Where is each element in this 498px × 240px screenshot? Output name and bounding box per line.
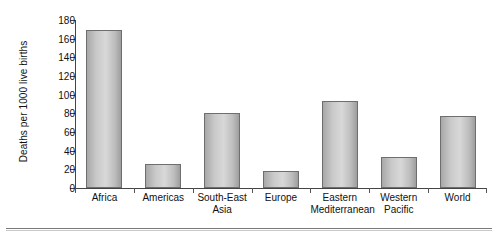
x-axis-label-europe: Europe: [252, 192, 311, 204]
x-axis-label-line: Eastern: [310, 192, 369, 204]
bar-world: [440, 116, 476, 188]
y-tick-label: 180: [58, 15, 75, 26]
x-axis-label-line: Asia: [193, 204, 252, 216]
x-axis-line: [75, 188, 487, 189]
bar-western-pacific: [381, 157, 417, 188]
y-axis-title: Deaths per 1000 live births: [18, 17, 29, 187]
y-axis-line: [75, 20, 76, 189]
bar-europe: [263, 171, 299, 188]
x-axis-label-line: Americas: [134, 192, 193, 204]
x-axis-label-eastern-mediterranean: EasternMediterranean: [310, 192, 369, 216]
bar-eastern-mediterranean: [322, 101, 358, 188]
bar-south-east-asia: [204, 113, 240, 188]
y-tick-label: 40: [64, 145, 75, 156]
x-axis-label-south-east-asia: South-EastAsia: [193, 192, 252, 216]
x-axis-label-americas: Americas: [134, 192, 193, 204]
bar-chart-figure: Deaths per 1000 live births 020406080100…: [0, 0, 498, 240]
bar-americas: [145, 164, 181, 188]
x-axis-label-line: South-East: [193, 192, 252, 204]
plot-area: 020406080100120140160180: [75, 20, 487, 188]
x-axis-label-western-pacific: WesternPacific: [369, 192, 428, 216]
x-axis-label-world: World: [428, 192, 487, 204]
x-axis-label-line: Pacific: [369, 204, 428, 216]
y-tick-label: 140: [58, 52, 75, 63]
x-axis-label-line: Europe: [252, 192, 311, 204]
x-axis-label-line: World: [428, 192, 487, 204]
y-tick-label: 80: [64, 108, 75, 119]
x-axis-label-africa: Africa: [75, 192, 134, 204]
y-tick-label: 60: [64, 127, 75, 138]
footer-divider: [6, 228, 492, 229]
bar-africa: [86, 30, 122, 188]
y-tick-label: 100: [58, 89, 75, 100]
x-axis-label-line: Mediterranean: [310, 204, 369, 216]
x-axis-label-line: Western: [369, 192, 428, 204]
y-tick-label: 20: [64, 164, 75, 175]
y-tick-label: 160: [58, 33, 75, 44]
y-tick-label: 120: [58, 71, 75, 82]
footer-divider-shadow: [6, 230, 492, 231]
x-axis-label-line: Africa: [75, 192, 134, 204]
